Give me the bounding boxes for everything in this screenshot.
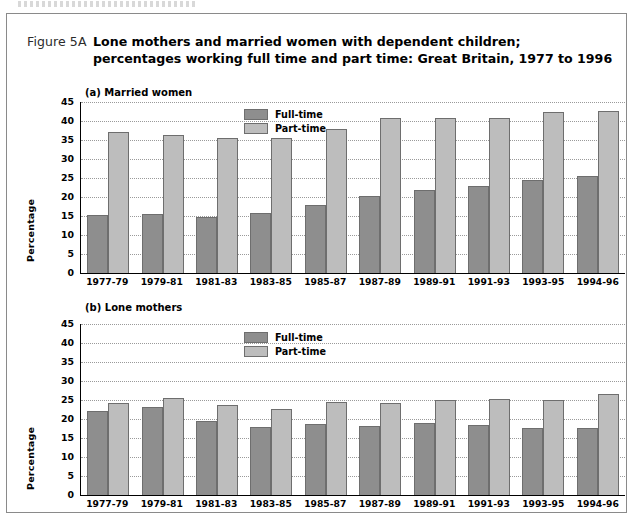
bar-full-time bbox=[305, 205, 326, 273]
bar-full-time bbox=[577, 428, 598, 495]
x-axis-tick-label: 1989-91 bbox=[407, 498, 462, 509]
x-axis-tick-label: 1981-83 bbox=[189, 276, 244, 287]
panel-a-plot-area: 454035302520151050 bbox=[80, 102, 625, 274]
x-axis-tick-label: 1985-87 bbox=[298, 276, 353, 287]
bar-part-time bbox=[217, 405, 238, 495]
bar-group bbox=[81, 324, 135, 495]
bar-group bbox=[516, 324, 570, 495]
y-axis-tick-label: 30 bbox=[48, 153, 74, 164]
legend-label-full-time: Full-time bbox=[275, 109, 323, 120]
figure-title-row: Figure 5ALone mothers and married women … bbox=[27, 34, 623, 67]
panel-a-legend: Full-time Part-time bbox=[244, 109, 326, 134]
bar-part-time bbox=[108, 403, 129, 495]
panel-a-y-axis-label: Percentage bbox=[25, 199, 36, 262]
y-axis-tick-label: 35 bbox=[48, 134, 74, 145]
bar-full-time bbox=[305, 424, 326, 495]
bar-full-time bbox=[87, 411, 108, 495]
bar-group bbox=[571, 324, 625, 495]
y-axis-tick-label: 25 bbox=[48, 394, 74, 405]
x-axis-tick-label: 1979-81 bbox=[135, 276, 190, 287]
bar-full-time bbox=[196, 217, 217, 273]
panel-b-x-axis-ticks: 1977-791979-811981-831983-851985-871987-… bbox=[80, 498, 625, 509]
bar-part-time bbox=[543, 112, 564, 273]
bar-group bbox=[135, 102, 189, 273]
bar-group bbox=[407, 324, 461, 495]
bar-part-time bbox=[598, 394, 619, 495]
bar-part-time bbox=[326, 129, 347, 273]
bar-full-time bbox=[468, 186, 489, 273]
bar-full-time bbox=[250, 213, 271, 273]
y-axis-tick-label: 5 bbox=[48, 470, 74, 481]
x-axis-tick-label: 1994-96 bbox=[571, 498, 626, 509]
bar-full-time bbox=[142, 407, 163, 495]
bar-part-time bbox=[489, 399, 510, 495]
bar-full-time bbox=[87, 215, 108, 273]
bar-part-time bbox=[435, 118, 456, 273]
bar-part-time bbox=[489, 118, 510, 273]
legend-item-full-time: Full-time bbox=[244, 332, 326, 343]
bar-group bbox=[516, 102, 570, 273]
legend-item-part-time: Part-time bbox=[244, 346, 326, 357]
bar-full-time bbox=[522, 180, 543, 273]
chart-panel-married-women: (a) Married women Percentage 45403530252… bbox=[27, 87, 627, 292]
bar-part-time bbox=[163, 398, 184, 495]
bar-group bbox=[190, 102, 244, 273]
legend-item-full-time: Full-time bbox=[244, 109, 326, 120]
y-axis-tick-label: 40 bbox=[48, 337, 74, 348]
y-axis-tick-label: 0 bbox=[48, 267, 74, 278]
x-axis-tick-label: 1991-93 bbox=[462, 498, 517, 509]
panel-b-plot-area: 454035302520151050 bbox=[80, 324, 625, 496]
legend-label-full-time: Full-time bbox=[275, 332, 323, 343]
bar-part-time bbox=[435, 400, 456, 495]
bar-group bbox=[571, 102, 625, 273]
y-axis-tick-label: 25 bbox=[48, 172, 74, 183]
y-axis-tick-label: 15 bbox=[48, 210, 74, 221]
bar-group bbox=[190, 324, 244, 495]
bar-part-time bbox=[271, 138, 292, 273]
legend-swatch-part-time-icon bbox=[244, 346, 268, 357]
page-header-smudge bbox=[18, 1, 198, 7]
y-axis-tick-label: 20 bbox=[48, 413, 74, 424]
y-axis-tick-label: 10 bbox=[48, 229, 74, 240]
figure-title: Lone mothers and married women with depe… bbox=[93, 34, 613, 67]
legend-item-part-time: Part-time bbox=[244, 123, 326, 134]
x-axis-tick-label: 1983-85 bbox=[244, 498, 299, 509]
y-axis-tick-label: 40 bbox=[48, 115, 74, 126]
legend-swatch-full-time-icon bbox=[244, 332, 268, 343]
y-axis-tick-label: 15 bbox=[48, 432, 74, 443]
x-axis-tick-label: 1977-79 bbox=[80, 276, 135, 287]
bar-part-time bbox=[163, 135, 184, 273]
panel-a-bars bbox=[81, 102, 625, 273]
bar-part-time bbox=[271, 409, 292, 495]
x-axis-tick-label: 1987-89 bbox=[353, 276, 408, 287]
x-axis-tick-label: 1989-91 bbox=[407, 276, 462, 287]
bar-part-time bbox=[108, 132, 129, 273]
legend-swatch-full-time-icon bbox=[244, 109, 268, 120]
chart-panel-lone-mothers: (b) Lone mothers Percentage 454035302520… bbox=[27, 302, 627, 519]
legend-label-part-time: Part-time bbox=[275, 123, 326, 134]
bar-group bbox=[353, 324, 407, 495]
bar-group bbox=[135, 324, 189, 495]
bar-part-time bbox=[380, 118, 401, 273]
figure-number: Figure 5A bbox=[27, 34, 93, 49]
legend-swatch-part-time-icon bbox=[244, 123, 268, 134]
bar-full-time bbox=[468, 425, 489, 495]
figure-frame: Figure 5ALone mothers and married women … bbox=[6, 13, 627, 513]
y-axis-tick-label: 45 bbox=[48, 96, 74, 107]
y-axis-tick-label: 35 bbox=[48, 356, 74, 367]
panel-b-y-axis-label: Percentage bbox=[25, 427, 36, 490]
x-axis-tick-label: 1987-89 bbox=[353, 498, 408, 509]
bar-group bbox=[462, 324, 516, 495]
bar-full-time bbox=[414, 423, 435, 495]
panel-b-legend: Full-time Part-time bbox=[244, 332, 326, 357]
y-axis-tick-label: 5 bbox=[48, 248, 74, 259]
bar-group bbox=[81, 102, 135, 273]
bar-full-time bbox=[359, 196, 380, 273]
bar-part-time bbox=[380, 403, 401, 495]
bar-part-time bbox=[598, 111, 619, 273]
x-axis-tick-label: 1979-81 bbox=[135, 498, 190, 509]
x-axis-tick-label: 1983-85 bbox=[244, 276, 299, 287]
bar-part-time bbox=[543, 400, 564, 495]
panel-b-bars bbox=[81, 324, 625, 495]
bar-full-time bbox=[522, 428, 543, 495]
